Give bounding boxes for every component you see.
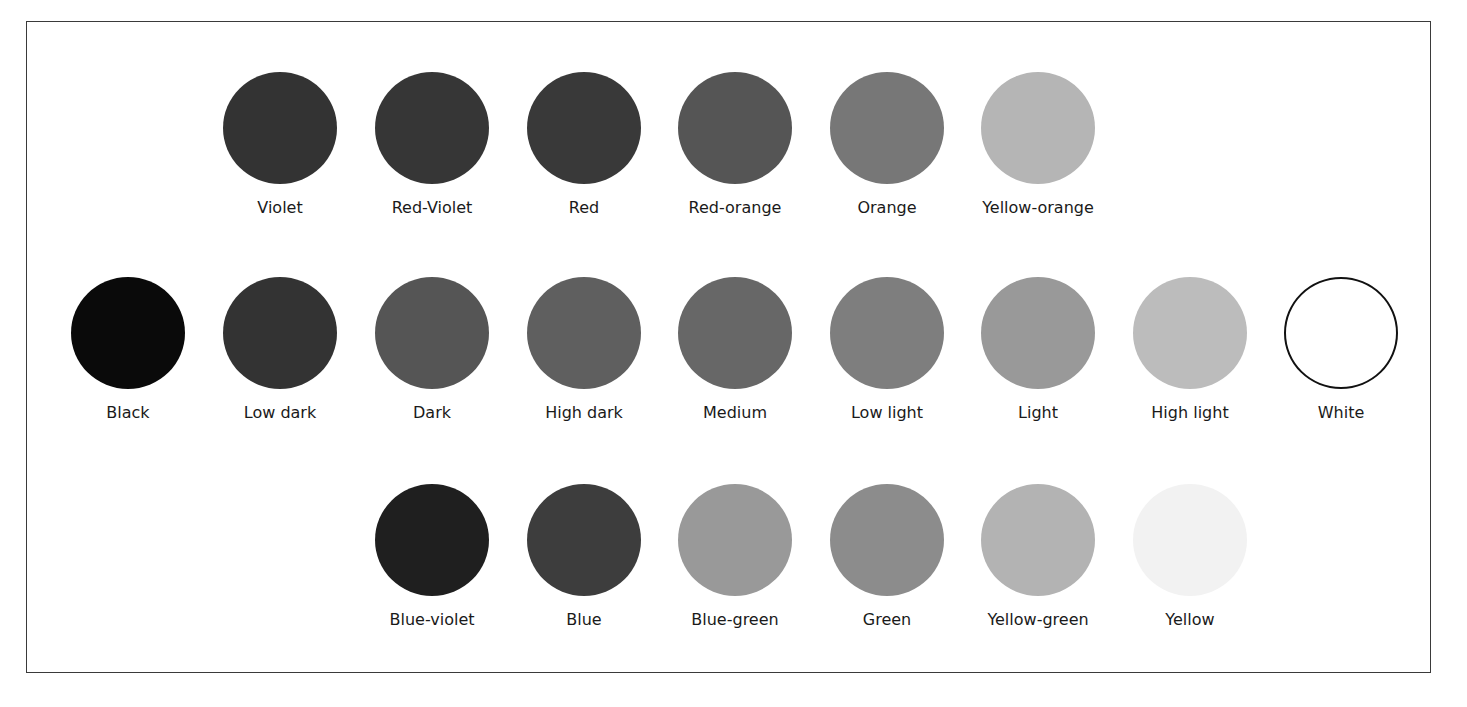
swatch-label-dark: Dark — [352, 403, 512, 423]
swatch-high-dark — [527, 277, 641, 389]
swatch-label-yellow: Yellow — [1110, 610, 1270, 630]
swatch-green — [830, 484, 944, 596]
swatch-label-high-dark: High dark — [504, 403, 664, 423]
swatch-label-low-light: Low light — [807, 403, 967, 423]
swatch-label-yellow-orange: Yellow-orange — [958, 198, 1118, 218]
swatch-label-high-light: High light — [1110, 403, 1270, 423]
swatch-label-red-orange: Red-orange — [655, 198, 815, 218]
swatch-label-violet: Violet — [200, 198, 360, 218]
swatch-light — [981, 277, 1095, 389]
swatch-label-light: Light — [958, 403, 1118, 423]
swatch-red-orange — [678, 72, 792, 184]
swatch-low-light — [830, 277, 944, 389]
swatch-black — [71, 277, 185, 389]
swatch-label-blue-green: Blue-green — [655, 610, 815, 630]
swatch-label-blue-violet: Blue-violet — [352, 610, 512, 630]
swatch-label-medium: Medium — [655, 403, 815, 423]
swatch-label-yellow-green: Yellow-green — [958, 610, 1118, 630]
swatch-red-violet — [375, 72, 489, 184]
swatch-label-blue: Blue — [504, 610, 664, 630]
swatch-yellow-orange — [981, 72, 1095, 184]
swatch-label-green: Green — [807, 610, 967, 630]
swatch-medium — [678, 277, 792, 389]
swatch-orange — [830, 72, 944, 184]
swatch-low-dark — [223, 277, 337, 389]
swatch-high-light — [1133, 277, 1247, 389]
swatch-yellow — [1133, 484, 1247, 596]
swatch-red — [527, 72, 641, 184]
swatch-label-black: Black — [48, 403, 208, 423]
swatch-label-low-dark: Low dark — [200, 403, 360, 423]
swatch-violet — [223, 72, 337, 184]
swatch-blue — [527, 484, 641, 596]
swatch-dark — [375, 277, 489, 389]
swatch-label-orange: Orange — [807, 198, 967, 218]
swatch-white — [1284, 277, 1398, 389]
swatch-yellow-green — [981, 484, 1095, 596]
swatch-label-red: Red — [504, 198, 664, 218]
swatch-blue-green — [678, 484, 792, 596]
swatch-label-white: White — [1261, 403, 1421, 423]
swatch-label-red-violet: Red-Violet — [352, 198, 512, 218]
swatch-blue-violet — [375, 484, 489, 596]
